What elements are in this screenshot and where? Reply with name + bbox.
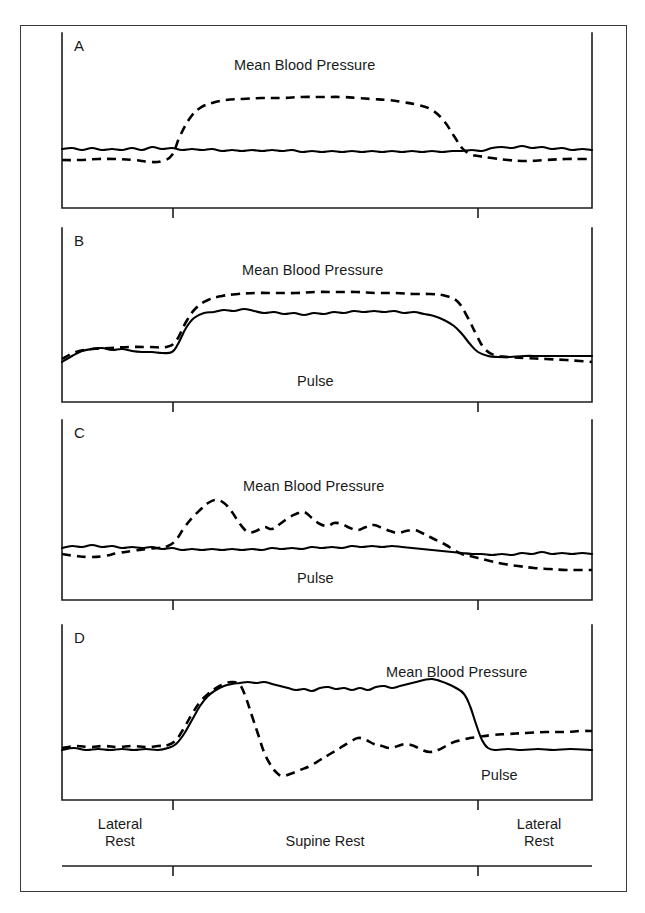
panel-b-mbp-label: Mean Blood Pressure xyxy=(242,262,383,278)
panel-a-mbp-trace xyxy=(62,97,592,162)
axis-label-lateral-rest-right-line2: Rest xyxy=(489,833,589,850)
panel-d-frame xyxy=(62,625,592,800)
axis-label-lateral-rest-right-line1: Lateral xyxy=(489,816,589,833)
panel-c-frame xyxy=(62,420,592,600)
panel-a-frame xyxy=(62,33,592,208)
panel-b-svg xyxy=(0,0,645,913)
panel-a-mbp-label: Mean Blood Pressure xyxy=(234,57,375,73)
phase-axis-svg xyxy=(0,0,645,913)
panel-c-pulse-trace xyxy=(62,545,592,555)
panel-a-pulse-trace xyxy=(62,146,592,152)
panel-d-mbp-label: Mean Blood Pressure xyxy=(386,664,527,680)
axis-label-supine-rest-line1: Supine Rest xyxy=(275,833,375,850)
panel-a-svg xyxy=(0,0,645,913)
panel-b-pulse-label: Pulse xyxy=(297,373,334,389)
panel-c-mbp-label: Mean Blood Pressure xyxy=(243,478,384,494)
axis-label-lateral-rest-left-line1: Lateral xyxy=(70,816,170,833)
axis-label-supine-rest: Supine Rest xyxy=(275,833,375,850)
panel-b-frame xyxy=(62,228,592,402)
panel-d-mbp-trace xyxy=(62,682,592,776)
panel-d-letter: D xyxy=(74,630,85,645)
panel-c-pulse-label: Pulse xyxy=(297,570,334,586)
panel-c-letter: C xyxy=(74,425,85,440)
panel-a: A Mean Blood Pressure xyxy=(0,0,645,913)
panel-d-pulse-label: Pulse xyxy=(481,767,518,783)
phase-axis: Lateral Rest Supine Rest Lateral Rest xyxy=(0,0,645,913)
axis-label-lateral-rest-left-line2: Rest xyxy=(70,833,170,850)
panel-b-mbp-trace xyxy=(62,292,592,362)
panels-layer: A Mean Blood Pressure B Mean Blood Press… xyxy=(0,0,645,913)
axis-label-lateral-rest-right: Lateral Rest xyxy=(489,816,589,850)
panel-c: C Mean Blood Pressure Pulse xyxy=(0,0,645,913)
panel-a-letter: A xyxy=(74,38,84,53)
figure-root: A Mean Blood Pressure B Mean Blood Press… xyxy=(0,0,645,913)
panel-b-letter: B xyxy=(74,233,84,248)
panel-d: D Mean Blood Pressure Pulse xyxy=(0,0,645,913)
panel-b-pulse-trace xyxy=(62,309,592,362)
panel-b: B Mean Blood Pressure Pulse xyxy=(0,0,645,913)
panel-d-svg xyxy=(0,0,645,913)
axis-label-lateral-rest-left: Lateral Rest xyxy=(70,816,170,850)
panel-c-svg xyxy=(0,0,645,913)
panel-d-pulse-trace xyxy=(62,679,592,750)
panel-c-mbp-trace xyxy=(62,500,592,570)
